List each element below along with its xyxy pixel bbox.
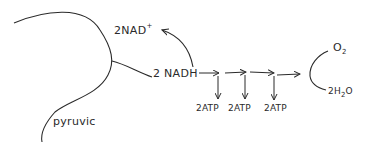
diagram-canvas: 2NAD+ 2 NADH pyruvic 2ATP 2ATP 2ATP O2 2… — [0, 0, 370, 150]
nad-plus-label: 2NAD+ — [114, 24, 153, 36]
atp-label-1: 2ATP — [196, 104, 219, 113]
water-prefix: 2H — [328, 86, 341, 96]
chain-arrow-2 — [225, 72, 246, 73]
chain-arrow-4 — [277, 74, 300, 75]
water-label: 2H2O — [328, 87, 353, 99]
atp-label-2: 2ATP — [228, 104, 251, 113]
oxygen-label: O2 — [333, 42, 347, 56]
oxygen-water-curve — [310, 51, 328, 90]
nad-plus-superscript: + — [146, 22, 152, 30]
nad-plus-text: 2NAD — [114, 24, 146, 37]
pyruvic-label: pyruvic — [53, 116, 96, 127]
branch-line — [112, 61, 152, 77]
nadh-label: 2 NADH — [153, 68, 198, 79]
oxygen-subscript: 2 — [342, 48, 347, 56]
chain-arrow-3 — [250, 72, 274, 73]
atp-label-3: 2ATP — [264, 104, 287, 113]
oxygen-text: O — [333, 41, 342, 54]
nad-regeneration-arrow — [162, 30, 193, 67]
water-suffix: O — [346, 86, 353, 96]
